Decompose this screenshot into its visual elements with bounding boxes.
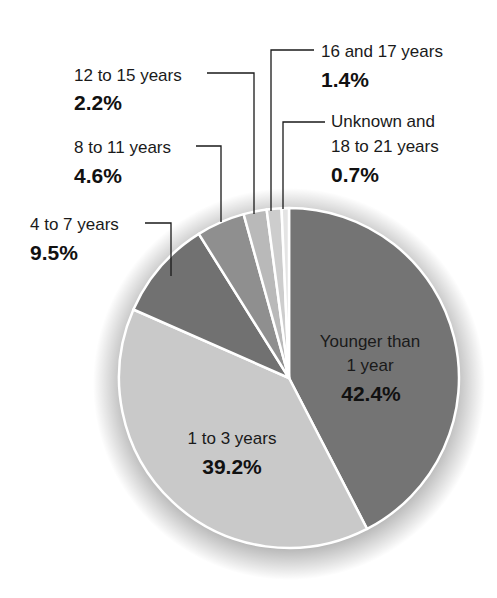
label-younger-line2: 1 year (346, 356, 394, 375)
pct-unknown: 0.7% (331, 163, 379, 186)
label-8-11: 8 to 11 years (74, 138, 171, 157)
pie-chart: 12 to 15 years 2.2% 8 to 11 years 4.6% 4… (0, 0, 497, 598)
label-unknown-line2: 18 to 21 years (331, 137, 439, 156)
label-4-7: 4 to 7 years (30, 215, 119, 234)
pct-4-7: 9.5% (30, 241, 78, 264)
pct-16-17: 1.4% (321, 68, 369, 91)
label-unknown-line1: Unknown and (331, 112, 435, 131)
pct-12-15: 2.2% (74, 91, 122, 114)
label-12-15: 12 to 15 years (74, 66, 182, 85)
pct-younger: 42.4% (341, 382, 401, 405)
label-younger-line1: Younger than (320, 332, 421, 351)
label-1-3: 1 to 3 years (188, 429, 277, 448)
leader-16-17 (271, 50, 314, 211)
pie-slices (119, 208, 459, 548)
label-16-17: 16 and 17 years (321, 42, 443, 61)
pct-8-11: 4.6% (74, 164, 122, 187)
pct-1-3: 39.2% (202, 455, 262, 478)
